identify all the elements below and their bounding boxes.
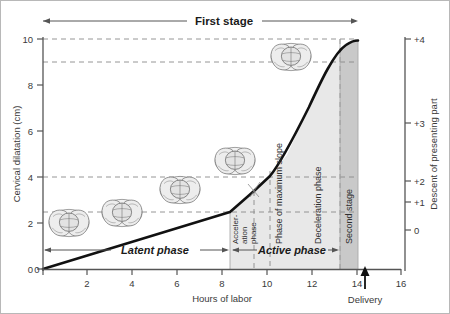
left-tick-label: 10	[22, 34, 33, 45]
bottom-tick-label: 16	[396, 278, 407, 289]
left-tick-label: 2	[28, 218, 33, 229]
latent-phase-span: Latent phase	[44, 244, 229, 256]
delivery-label: Delivery	[348, 294, 383, 305]
right-tick-label: +4	[414, 34, 425, 45]
left-tick-label: 6	[28, 126, 33, 137]
first-stage-arrow-right	[351, 18, 358, 24]
acceleration-phase-label-line2: ation	[240, 227, 249, 244]
first-stage-label: First stage	[195, 15, 253, 27]
right-tick-label: +2	[414, 176, 425, 187]
fetal-head-icon	[215, 147, 255, 174]
bottom-tick-label: 4	[129, 278, 134, 289]
left-tick-label: 8	[28, 80, 33, 91]
figure-frame: 10 8 6 4 2 0 Cervical dilatation (cm) 0	[0, 0, 450, 314]
y-axis-title: Cervical dilatation (cm)	[11, 106, 22, 203]
fetal-head-icon	[49, 209, 89, 236]
first-stage-arrow-left	[43, 18, 50, 24]
bottom-tick-label: 12	[307, 278, 318, 289]
y2-axis-title: Descent of presenting part	[428, 98, 439, 210]
right-tick-label: 0	[414, 225, 419, 236]
bottom-tick-label: 6	[174, 278, 179, 289]
bottom-tick-label: 2	[84, 278, 89, 289]
bottom-tick-label: 8	[219, 278, 224, 289]
left-tick-label: 4	[28, 172, 33, 183]
x-axis-title: Hours of labor	[192, 293, 252, 304]
deceleration-phase-label: Deceleration phase	[313, 166, 323, 244]
second-stage-label: Second stage	[344, 189, 354, 244]
fetal-head-icon	[102, 199, 142, 226]
left-axis-ticks	[37, 39, 43, 269]
acceleration-phase-label-line3: phase	[249, 222, 258, 244]
right-tick-label: +3	[414, 118, 425, 129]
left-axis: 10 8 6 4 2 0 Cervical dilatation (cm)	[11, 34, 43, 275]
bottom-tick-label: 14	[352, 278, 363, 289]
delivery-arrow-head	[361, 266, 370, 276]
right-axis: +4 +3 +2 +1 0 Descent of presenting part	[405, 34, 439, 272]
partogram-chart: 10 8 6 4 2 0 Cervical dilatation (cm) 0	[1, 1, 450, 314]
latent-arrow-right	[222, 247, 229, 252]
acceleration-phase-label-line1: Acceler-	[231, 214, 240, 244]
bottom-tick-label: 10	[262, 278, 273, 289]
latent-arrow-left	[44, 247, 51, 252]
max-slope-phase-label: Phase of maximum slope	[274, 143, 284, 244]
right-tick-label: +1	[414, 197, 425, 208]
left-tick-label: 0	[28, 264, 33, 275]
bottom-tick-label: 0	[34, 264, 39, 275]
fetal-head-icon	[160, 176, 200, 203]
fetal-head-icon	[271, 43, 311, 70]
first-stage-span: First stage	[43, 15, 358, 27]
right-axis-ticks	[405, 39, 411, 230]
latent-phase-label: Latent phase	[121, 244, 189, 256]
active-phase-label: Active phase	[257, 244, 326, 256]
